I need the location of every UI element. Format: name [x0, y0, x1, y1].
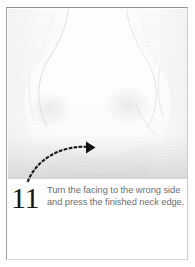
step-photo: [8, 9, 187, 179]
caption-text-block: Turn the facing to the wrong side and pr…: [47, 182, 184, 209]
step-number: 11: [11, 183, 47, 213]
lower-blank-area: [8, 219, 187, 259]
photo-scan-texture: [8, 9, 187, 179]
step-caption: 11 Turn the facing to the wrong side and…: [11, 182, 183, 213]
caption-line-2: and press the finished neck edge.: [47, 196, 184, 208]
instruction-page: 11 Turn the facing to the wrong side and…: [0, 0, 195, 267]
caption-line-1: Turn the facing to the wrong side: [47, 184, 184, 196]
